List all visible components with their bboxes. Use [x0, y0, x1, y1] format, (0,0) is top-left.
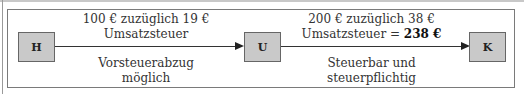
edge-h-u-note-1: Vorsteuerabzug: [55, 56, 237, 71]
edge-u-k-below-label: Steuerbar und steuerpflichtig: [281, 56, 462, 86]
edge-u-k-tax-line: Umsatzsteuer = 238 €: [281, 27, 462, 42]
node-k-label: K: [483, 41, 493, 54]
edge-h-u-tax: Umsatzsteuer: [55, 27, 237, 42]
edge-u-k-total: 238 €: [404, 27, 442, 41]
edge-h-u-note-2: möglich: [55, 71, 237, 86]
node-h: H: [18, 32, 55, 62]
edge-u-k-note-2: steuerpflichtig: [281, 71, 462, 86]
node-u-label: U: [258, 41, 268, 54]
node-u: U: [244, 32, 281, 62]
node-k: K: [469, 32, 506, 62]
edge-u-k-amount: 200 € zuzüglich 38 €: [281, 12, 462, 27]
edge-h-u-above-label: 100 € zuzüglich 19 € Umsatzsteuer: [55, 12, 237, 42]
left-border-line: [2, 0, 3, 94]
edge-u-k-tax-prefix: Umsatzsteuer =: [302, 27, 404, 41]
edge-h-u-below-label: Vorsteuerabzug möglich: [55, 56, 237, 86]
edge-u-k-note-1: Steuerbar und: [281, 56, 462, 71]
edge-h-u-amount: 100 € zuzüglich 19 €: [55, 12, 237, 27]
top-border-line: [0, 0, 524, 2]
node-h-label: H: [31, 41, 41, 54]
arrow-h-to-u-line: [55, 46, 237, 47]
edge-u-k-above-label: 200 € zuzüglich 38 € Umsatzsteuer = 238 …: [281, 12, 462, 42]
arrowhead-icon: [235, 42, 244, 50]
arrow-u-to-k-line: [281, 46, 462, 47]
